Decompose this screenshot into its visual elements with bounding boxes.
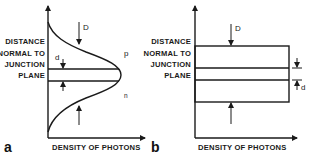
n-region-label: n	[124, 92, 128, 99]
y-axis-label-a-line4: PLANE	[18, 71, 45, 80]
gaussian-profile-curve	[48, 22, 121, 132]
junction-width-label-a: d	[55, 53, 59, 62]
y-axis-label-a-line2: NORMAL TO	[0, 49, 45, 58]
panel-label-b: b	[151, 139, 160, 155]
rectangular-profile-box	[195, 46, 289, 102]
panel-label-a: a	[4, 139, 12, 155]
mode-width-label-b: D	[235, 24, 241, 33]
p-region-label: p	[124, 49, 129, 58]
x-axis-label-b: DENSITY OF PHOTONS	[198, 143, 287, 152]
panel-b: DISTANCE NORMAL TO JUNCTION PLANE D d DE…	[143, 6, 305, 155]
mode-width-label-a: D	[83, 23, 89, 32]
x-axis-label-a: DENSITY OF PHOTONS	[52, 143, 141, 152]
y-axis-label-b-line3: JUNCTION	[151, 60, 191, 69]
y-axis-label-b-line1: DISTANCE	[151, 37, 191, 46]
y-axis-label-b-line2: NORMAL TO	[143, 49, 191, 58]
y-axis-label-a-line1: DISTANCE	[5, 37, 45, 46]
figure: DISTANCE NORMAL TO JUNCTION PLANE D d p …	[0, 0, 311, 158]
junction-width-label-b: d	[301, 83, 305, 92]
y-axis-label-a-line3: JUNCTION	[5, 60, 45, 69]
panel-a: DISTANCE NORMAL TO JUNCTION PLANE D d p …	[0, 6, 145, 155]
y-axis-label-b-line4: PLANE	[164, 71, 191, 80]
